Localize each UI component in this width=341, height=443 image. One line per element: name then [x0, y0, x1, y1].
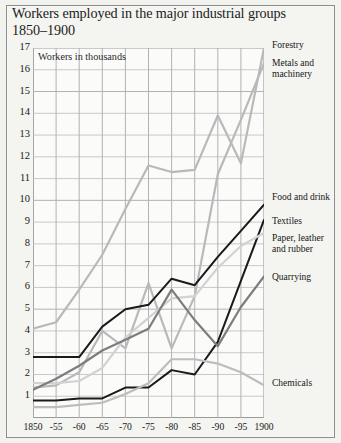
legend-label-paper: Paper, leather and rubber — [272, 233, 324, 254]
x-axis-tick: -65 — [96, 421, 109, 432]
series-line-forestry — [33, 48, 264, 329]
x-axis-tick: -60 — [73, 421, 86, 432]
x-axis-tick: 1850 — [23, 421, 42, 432]
x-axis-tick: -80 — [165, 421, 178, 432]
y-axis-tick: 12 — [4, 150, 30, 161]
plot-area — [33, 48, 264, 418]
legend-label-food: Food and drink — [272, 192, 330, 203]
x-axis-tick: -95 — [234, 421, 247, 432]
legend-label-quarrying: Quarrying — [272, 272, 311, 283]
y-axis-tick: 14 — [4, 106, 30, 117]
axis-note: Workers in thousands — [38, 51, 126, 62]
y-axis-tick: 17 — [4, 41, 30, 52]
y-axis-tick: 1 — [4, 389, 30, 400]
legend-label-textiles: Textiles — [272, 216, 302, 227]
series-line-metals-and-machinery — [33, 63, 264, 387]
x-axis-tick: -70 — [119, 421, 132, 432]
y-axis-tick: 11 — [4, 172, 30, 183]
page-title: Workers employed in the major industrial… — [12, 5, 312, 38]
x-axis-tick: -55 — [50, 421, 63, 432]
y-axis-tick: 16 — [4, 63, 30, 74]
y-axis-tick: 7 — [4, 259, 30, 270]
y-axis-tick: 3 — [4, 346, 30, 357]
y-axis-tick: 8 — [4, 237, 30, 248]
x-axis-tick: -90 — [211, 421, 224, 432]
legend-label-chemicals: Chemicals — [272, 378, 312, 389]
y-axis-tick: 13 — [4, 128, 30, 139]
legend-label-forestry: Forestry — [272, 40, 304, 51]
y-axis-tick: 5 — [4, 302, 30, 313]
y-axis-tick: 9 — [4, 215, 30, 226]
y-axis-tick: 15 — [4, 85, 30, 96]
legend-label-metals: Metals and machinery — [272, 58, 314, 79]
y-axis-tick: 2 — [4, 367, 30, 378]
y-axis-tick: 4 — [4, 324, 30, 335]
chart-page: Workers employed in the major industrial… — [0, 0, 341, 443]
y-axis-tick: 6 — [4, 280, 30, 291]
series-lines — [33, 48, 264, 418]
x-axis-tick: -75 — [142, 421, 155, 432]
y-axis-labels: 1716151413121110987654321 — [0, 0, 30, 443]
y-axis-tick: 10 — [4, 193, 30, 204]
series-line-food-and-drink — [33, 205, 264, 357]
x-axis-tick: -85 — [188, 421, 201, 432]
series-line-paper-leather-and-rubber — [33, 233, 264, 383]
legend: ForestryMetals and machineryFood and dri… — [269, 0, 341, 443]
series-line-quarrying — [33, 277, 264, 390]
